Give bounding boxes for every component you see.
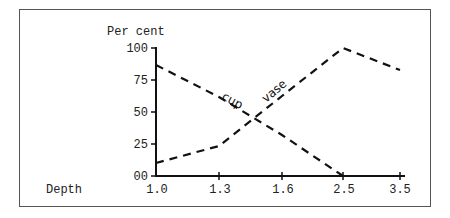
line-chart: 100 75 50 25 00 1.0 1.3 1.6 2.5 3.5 Per … [0, 0, 450, 218]
y-tick-label: 00 [134, 170, 148, 184]
y-tick-label: 25 [134, 138, 148, 152]
x-axis-title: Depth [46, 183, 82, 197]
y-tick-label: 50 [134, 106, 148, 120]
x-tick-label: 3.5 [389, 183, 411, 197]
x-tick-label: 1.6 [272, 183, 294, 197]
series-vase-line [156, 48, 400, 163]
y-axis-title: Per cent [107, 25, 165, 39]
x-tick-label: 2.5 [333, 183, 355, 197]
x-tick-label: 1.0 [146, 183, 168, 197]
y-tick-label: 75 [134, 74, 148, 88]
x-tick-label: 1.3 [209, 183, 231, 197]
x-tick-labels: 1.0 1.3 1.6 2.5 3.5 [146, 183, 411, 197]
series-label-vase: vase [259, 77, 290, 106]
series-label-cup: cup [220, 89, 246, 112]
y-tick-label: 100 [126, 42, 148, 56]
y-tick-labels: 100 75 50 25 00 [126, 42, 148, 184]
